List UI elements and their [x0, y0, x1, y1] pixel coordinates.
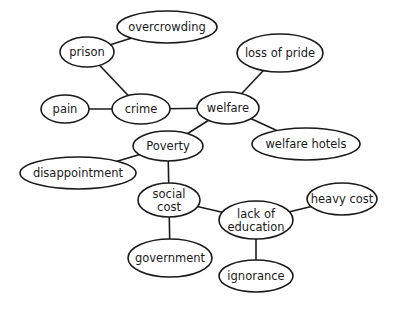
concept-map-canvas: overcrowdingprisonloss of pridepaincrime…: [0, 0, 397, 309]
node-welfare-hotels: welfare hotels: [252, 128, 360, 160]
node-label: loss of pride: [245, 46, 315, 60]
node-label: welfare hotels: [265, 137, 346, 151]
node-label: lack of: [237, 207, 276, 221]
node-label: heavy cost: [311, 192, 374, 206]
node-poverty: Poverty: [133, 131, 203, 161]
node-loss-of-pride: loss of pride: [237, 34, 323, 72]
node-social-cost: socialcost: [138, 183, 200, 217]
node-pain: pain: [41, 95, 89, 123]
node-label: social: [153, 187, 186, 201]
node-heavy-cost: heavy cost: [307, 183, 377, 215]
node-label: crime: [125, 102, 158, 116]
node-disappointment: disappointment: [20, 157, 136, 189]
node-label: education: [227, 220, 284, 234]
node-label: welfare: [207, 101, 249, 115]
node-ignorance: ignorance: [219, 260, 293, 292]
node-label: disappointment: [33, 166, 124, 180]
node-lack-of-education: lack ofeducation: [219, 201, 293, 239]
node-label: ignorance: [227, 269, 284, 283]
node-overcrowding: overcrowding: [117, 11, 217, 43]
node-label: overcrowding: [128, 20, 206, 34]
node-prison: prison: [60, 37, 114, 67]
node-government: government: [128, 239, 212, 277]
node-label: prison: [69, 45, 105, 59]
node-label: government: [135, 251, 206, 265]
node-welfare: welfare: [197, 92, 259, 124]
node-label: cost: [157, 200, 181, 214]
node-label: pain: [53, 102, 78, 116]
node-label: Poverty: [146, 139, 190, 153]
node-crime: crime: [112, 94, 170, 124]
nodes-layer: overcrowdingprisonloss of pridepaincrime…: [20, 11, 377, 292]
